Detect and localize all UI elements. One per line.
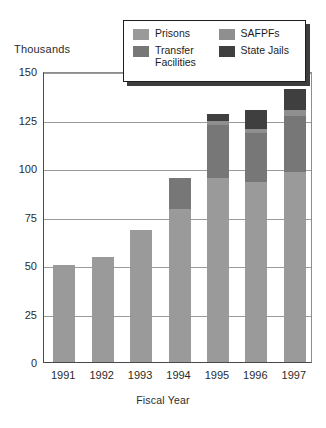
legend-item-label: State Jails: [241, 44, 289, 56]
x-axis-title: Fiscal Year: [0, 394, 326, 406]
legend-item[interactable]: Transfer Facilities: [133, 44, 213, 68]
bar-stack: [53, 265, 75, 362]
legend-swatch-icon: [133, 29, 149, 40]
bar-segment: [207, 178, 229, 362]
bar-segment: [169, 178, 191, 209]
bar-stack: [92, 257, 114, 362]
x-axis-tick-label: 1994: [166, 369, 190, 381]
chart-page: Thousands 0255075100125150 1991199219931…: [0, 0, 326, 428]
legend-item-label: Transfer Facilities: [155, 44, 196, 68]
legend-item-label: SAFPFs: [241, 27, 280, 39]
legend-item[interactable]: State Jails: [219, 44, 299, 68]
bar-stack: [169, 178, 191, 362]
y-axis-tick-label: 25: [0, 309, 37, 321]
bar-segment: [207, 125, 229, 177]
bar-stack: [207, 114, 229, 362]
legend-swatch-icon: [219, 29, 235, 40]
bar-group: [44, 73, 311, 362]
legend-item[interactable]: SAFPFs: [219, 27, 299, 40]
y-axis-tick-label: 0: [0, 357, 37, 369]
x-axis-tick-label: 1993: [128, 369, 152, 381]
legend-item-label: Prisons: [155, 27, 190, 39]
bar-segment: [245, 182, 267, 362]
bar-segment: [284, 89, 306, 110]
y-axis-unit-label: Thousands: [14, 43, 70, 55]
bar-segment: [284, 172, 306, 362]
x-axis-tick-label: 1996: [243, 369, 267, 381]
x-axis-tick-label: 1997: [282, 369, 306, 381]
y-axis-tick-label: 100: [0, 163, 37, 175]
plot-area: [43, 72, 312, 363]
legend-swatch-icon: [219, 46, 235, 57]
bar-segment: [130, 230, 152, 362]
bar-segment: [245, 133, 267, 182]
bar-stack: [130, 230, 152, 362]
y-axis-tick-label: 50: [0, 260, 37, 272]
legend-swatch-icon: [133, 46, 149, 57]
legend-grid: PrisonsSAFPFsTransfer FacilitiesState Ja…: [133, 27, 298, 68]
y-axis-tick-label: 150: [0, 66, 37, 78]
x-axis-tick-label: 1995: [205, 369, 229, 381]
bar-stack: [284, 89, 306, 363]
bar-segment: [92, 257, 114, 362]
legend-item[interactable]: Prisons: [133, 27, 213, 40]
bar-segment: [207, 114, 229, 122]
bar-segment: [245, 110, 267, 129]
bar-segment: [169, 209, 191, 362]
bar-stack: [245, 110, 267, 362]
x-axis-tick-label: 1992: [89, 369, 113, 381]
bar-segment: [284, 116, 306, 172]
bar-segment: [53, 265, 75, 362]
y-axis-tick-label: 75: [0, 212, 37, 224]
x-axis-tick-label: 1991: [51, 369, 75, 381]
y-axis-tick-label: 125: [0, 115, 37, 127]
chart-legend: PrisonsSAFPFsTransfer FacilitiesState Ja…: [123, 20, 306, 82]
